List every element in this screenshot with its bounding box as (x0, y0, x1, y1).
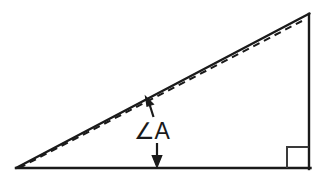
triangle-diagram-canvas: ∠A (0, 0, 324, 187)
angle-a-label: ∠A (134, 118, 171, 144)
diagram-svg: ∠A (0, 0, 324, 187)
